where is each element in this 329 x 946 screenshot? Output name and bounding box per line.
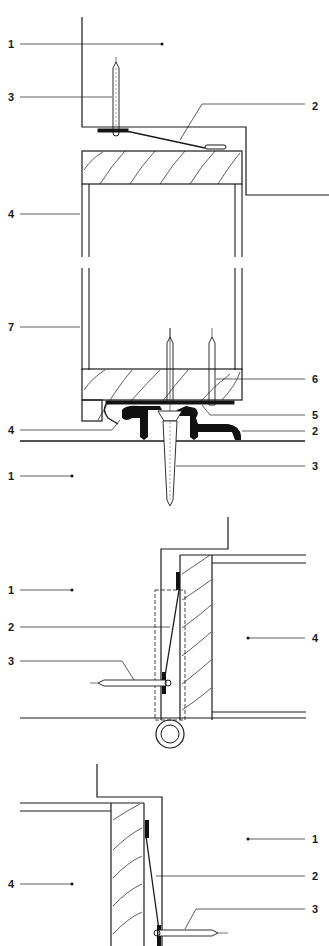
wood-grain-head <box>84 151 240 184</box>
leader-dots <box>71 43 250 886</box>
callout-3: 3 <box>8 91 14 103</box>
hinge-barrel <box>156 720 184 748</box>
wood-grain-jamb <box>182 555 211 710</box>
callout-6: 6 <box>312 373 318 385</box>
callout-2b: 2 <box>312 425 318 437</box>
callout-4c: 4 <box>312 632 319 644</box>
callout-4d: 4 <box>8 878 15 890</box>
callout-1c: 1 <box>8 584 14 596</box>
weather-strip-hinge <box>165 590 179 676</box>
weather-strip-lock <box>146 836 159 930</box>
nail-top <box>98 57 128 136</box>
weather-strip-head <box>126 131 205 148</box>
callout-1d: 1 <box>312 833 318 845</box>
callout-3c: 3 <box>8 655 14 667</box>
nail-lock <box>154 930 228 936</box>
technical-section-drawing: 1 3 2 4 7 6 5 4 2 3 1 1 2 4 3 1 4 2 3 <box>0 0 329 946</box>
callout-4: 4 <box>8 208 15 220</box>
door-leaf-edges <box>82 184 242 370</box>
frame-outline-3 <box>97 764 162 946</box>
figure-hinge-jamb <box>20 517 306 748</box>
callout-2c: 2 <box>8 621 14 633</box>
seal-clip <box>104 404 118 424</box>
wood-grain-jamb-3 <box>113 804 142 934</box>
callout-labels: 1 3 2 4 7 6 5 4 2 3 1 1 2 4 3 1 4 2 3 <box>8 38 319 915</box>
callout-2d: 2 <box>312 870 318 882</box>
callout-3b: 3 <box>312 460 318 472</box>
callout-3d: 3 <box>312 903 318 915</box>
figure-lock-jamb <box>20 764 228 946</box>
callout-2: 2 <box>312 100 318 112</box>
callout-5: 5 <box>312 409 318 421</box>
figure-threshold-section <box>20 17 329 506</box>
nail-hinge <box>90 680 171 686</box>
head-rail <box>82 151 242 184</box>
bottom-rail <box>82 369 242 400</box>
callout-4b: 4 <box>8 424 15 436</box>
callout-1b: 1 <box>8 470 14 482</box>
callout-7: 7 <box>8 321 14 333</box>
leader-lines <box>20 44 305 929</box>
threshold-screw <box>158 328 182 506</box>
callout-1: 1 <box>8 38 14 50</box>
